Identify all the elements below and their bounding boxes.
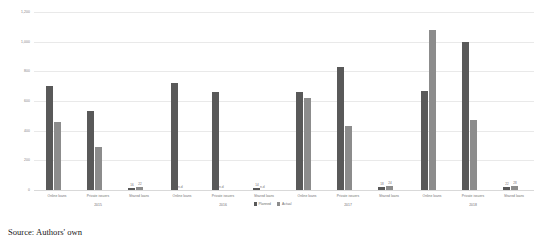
- x-axis-category-label: Shared loans: [116, 194, 162, 198]
- source-note: Source: Authors' own: [8, 227, 82, 237]
- bar: [337, 67, 344, 190]
- bar: [46, 86, 53, 190]
- x-axis-category-label: Private issuers: [325, 194, 371, 198]
- gridline: [34, 190, 534, 191]
- legend-item[interactable]: Planned: [254, 202, 271, 206]
- bar-category-group: [288, 12, 326, 190]
- chart-legend: PlannedActual: [0, 202, 545, 206]
- y-axis-tick-label: 1,200: [4, 10, 30, 14]
- x-axis-category-label: Online loans: [159, 194, 205, 198]
- bar: [128, 188, 135, 190]
- bar: [253, 188, 260, 190]
- legend-label: Actual: [282, 202, 291, 206]
- bar-category-group: [329, 12, 367, 190]
- x-axis-category-label: Online loans: [284, 194, 330, 198]
- bar: [304, 98, 311, 190]
- x-axis-category-label: Online loans: [409, 194, 455, 198]
- bar: [462, 42, 469, 190]
- y-axis-tick-label: 600: [4, 99, 30, 103]
- bar-category-group: [38, 12, 76, 190]
- legend-item[interactable]: Actual: [277, 202, 291, 206]
- bar-category-group: 2228: [495, 12, 533, 190]
- legend-swatch-icon: [277, 202, 280, 205]
- bar: [87, 111, 94, 190]
- x-axis-category-label: Online loans: [34, 194, 80, 198]
- bar: [95, 147, 102, 190]
- x-axis-category-label: Private issuers: [450, 194, 496, 198]
- y-axis-tick-label: 800: [4, 69, 30, 73]
- bar: [212, 92, 219, 190]
- x-axis-category-label: Shared loans: [491, 194, 537, 198]
- bar-category-group: [413, 12, 451, 190]
- bar-value-label: 28: [507, 181, 523, 185]
- bar: [171, 83, 178, 190]
- no-data-label: n.d: [260, 185, 265, 189]
- bar-category-group: n.d: [163, 12, 201, 190]
- bar: [54, 122, 61, 190]
- y-axis-tick-label: 1,000: [4, 40, 30, 44]
- no-data-label: n.d: [178, 185, 183, 189]
- bar-value-label: 22: [132, 182, 148, 186]
- bar: [511, 186, 518, 190]
- y-axis-tick-label: 0: [4, 188, 30, 192]
- no-data-label: n.d: [219, 185, 224, 189]
- bar: [136, 187, 143, 190]
- bar-category-group: [79, 12, 117, 190]
- plot-area: 1622n.dn.d14n.d18242228 Online loansPriv…: [34, 12, 534, 190]
- chart-figure: 1622n.dn.d14n.d18242228 Online loansPriv…: [0, 0, 545, 242]
- bar-category-group: 1824: [370, 12, 408, 190]
- y-axis-tick-label: 200: [4, 158, 30, 162]
- bar: [378, 187, 385, 190]
- bar-category-group: 1622: [120, 12, 158, 190]
- bar: [421, 91, 428, 190]
- bar-value-label: 24: [382, 181, 398, 185]
- bar: [429, 30, 436, 190]
- x-axis-category-label: Shared loans: [241, 194, 287, 198]
- bar-category-group: [454, 12, 492, 190]
- y-axis-tick-label: 400: [4, 129, 30, 133]
- legend-swatch-icon: [254, 202, 257, 205]
- x-axis-category-label: Shared loans: [366, 194, 412, 198]
- bar: [503, 187, 510, 190]
- bar: [345, 126, 352, 190]
- bar: [386, 186, 393, 190]
- bar-category-group: 14n.d: [245, 12, 283, 190]
- bar: [296, 92, 303, 190]
- legend-label: Planned: [259, 202, 271, 206]
- bar-category-group: n.d: [204, 12, 242, 190]
- x-axis-category-label: Private issuers: [75, 194, 121, 198]
- bar: [470, 120, 477, 190]
- x-axis-category-label: Private issuers: [200, 194, 246, 198]
